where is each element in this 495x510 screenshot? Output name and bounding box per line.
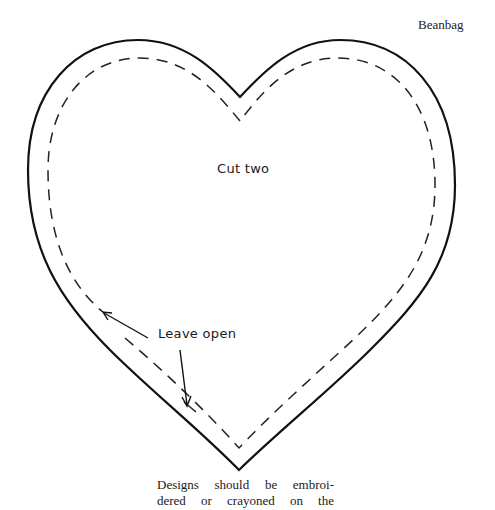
pattern-page: Beanbag Cut two Leave open Designs shoul… [0, 0, 495, 510]
heart-cut-outline [28, 40, 455, 470]
cut-instruction-label: Cut two [217, 161, 269, 176]
arrow-icon [180, 350, 191, 406]
arrow-icon [103, 312, 148, 338]
heart-stitch-line [48, 58, 435, 448]
caption-line: dered or crayoned on the [157, 493, 334, 509]
heart-pattern [0, 0, 495, 510]
caption-text: Designs should be embroi- dered or crayo… [157, 477, 334, 509]
leave-open-label: Leave open [158, 326, 236, 341]
caption-line: Designs should be embroi- [157, 477, 334, 493]
